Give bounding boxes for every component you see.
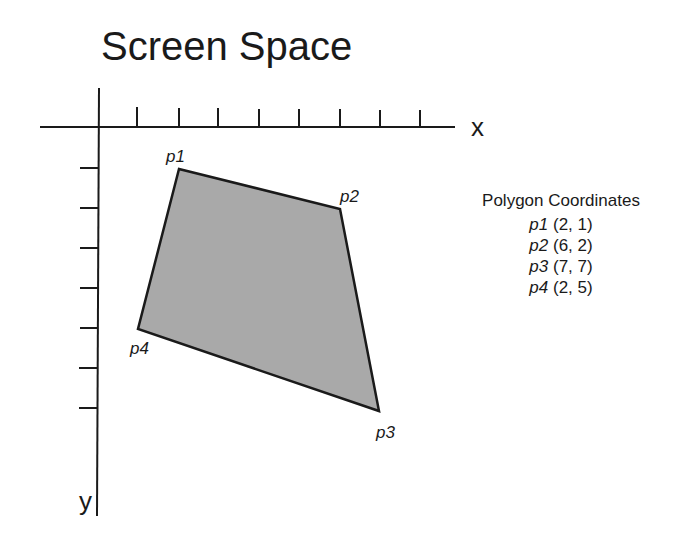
legend-point-name: p2 — [529, 236, 548, 255]
x-axis-ticks — [137, 107, 420, 127]
legend-row-p4: p4 (2, 5) — [452, 277, 670, 298]
legend-row-p2: p2 (6, 2) — [452, 235, 670, 256]
vertex-label-p4: p4 — [129, 339, 149, 358]
x-axis-label: x — [471, 112, 484, 142]
y-axis-ticks — [79, 168, 99, 408]
legend-point-coords: (7, 7) — [553, 257, 593, 276]
vertex-label-p1: p1 — [165, 147, 185, 166]
legend-point-coords: (2, 5) — [553, 278, 593, 297]
vertex-label-p3: p3 — [375, 423, 395, 442]
y-axis-label: y — [79, 486, 92, 516]
legend-row-p1: p1 (2, 1) — [452, 214, 670, 235]
legend-title: Polygon Coordinates — [452, 190, 670, 211]
legend-point-name: p1 — [529, 215, 548, 234]
legend-point-coords: (6, 2) — [553, 236, 593, 255]
legend-point-coords: (2, 1) — [553, 215, 593, 234]
y-axis — [97, 88, 99, 516]
legend-point-name: p3 — [529, 257, 548, 276]
vertex-label-p2: p2 — [339, 187, 359, 206]
polygon-coordinates-legend: Polygon Coordinates p1 (2, 1) p2 (6, 2) … — [452, 190, 670, 298]
legend-point-name: p4 — [529, 278, 548, 297]
legend-row-p3: p3 (7, 7) — [452, 256, 670, 277]
